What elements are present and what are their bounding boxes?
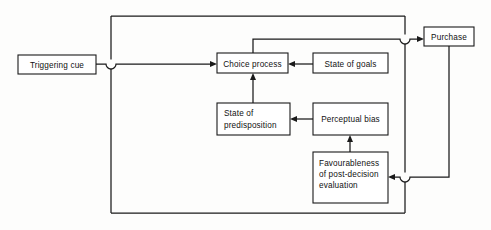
connector-purchase-to-favourableness [393, 46, 449, 182]
node-label-state-of-predisposition-line2: predisposition [224, 121, 277, 130]
node-label-favourableness-line1: Favourableness [319, 159, 379, 168]
node-label-perceptual-bias: Perceptual bias [321, 115, 380, 124]
connector-cue-to-choice [96, 64, 213, 69]
flow-diagram: Triggering cue Choice process State of g… [0, 0, 491, 230]
node-label-triggering-cue: Triggering cue [30, 61, 84, 70]
node-label-favourableness-line2: of post-decision [319, 170, 379, 179]
arrowhead-bias-to-predisposition [290, 116, 297, 122]
arrowhead-favourableness-to-bias [347, 135, 353, 142]
node-triggering-cue: Triggering cue [18, 55, 96, 74]
node-label-state-of-goals: State of goals [324, 60, 376, 69]
node-state-of-goals: State of goals [313, 53, 388, 73]
node-purchase: Purchase [424, 27, 474, 46]
connector-choice-to-purchase [253, 39, 420, 53]
node-choice-process: Choice process [217, 53, 288, 73]
node-label-state-of-predisposition-line1: State of [224, 109, 254, 118]
arrowhead-choice-to-purchase [417, 36, 424, 42]
node-state-of-predisposition: State of predisposition [217, 103, 290, 135]
arrowhead-cue-to-choice [210, 61, 217, 67]
arrowhead-predisposition-to-choice [250, 73, 256, 80]
node-label-purchase: Purchase [431, 33, 467, 42]
node-label-choice-process: Choice process [223, 60, 282, 69]
node-favourableness-of-post-decision-evaluation: Favourableness of post-decision evaluati… [313, 152, 388, 203]
arrowhead-purchase-to-favourableness [388, 174, 395, 180]
arrowhead-goals-to-choice [288, 61, 295, 67]
node-label-favourableness-line3: evaluation [319, 181, 358, 190]
node-perceptual-bias: Perceptual bias [313, 103, 388, 135]
diagram-canvas: Triggering cue Choice process State of g… [0, 0, 491, 230]
